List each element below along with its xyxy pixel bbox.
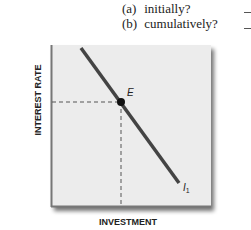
equilibrium-point-e bbox=[117, 98, 125, 106]
plot-panel bbox=[51, 45, 211, 207]
investment-demand-chart: E I1 INVESTMENT INTEREST RATE bbox=[0, 0, 251, 230]
x-axis-title: INVESTMENT bbox=[99, 217, 158, 227]
y-axis-title: INTEREST RATE bbox=[33, 65, 43, 136]
equilibrium-label: E bbox=[127, 87, 134, 98]
curve-label-subscript: 1 bbox=[186, 187, 190, 194]
